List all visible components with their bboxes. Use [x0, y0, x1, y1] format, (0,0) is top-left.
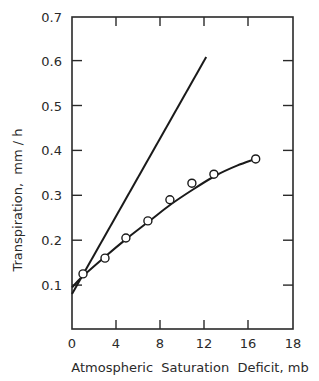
data-point [122, 234, 130, 242]
data-point [101, 254, 109, 262]
y-tick-label: 0.7 [41, 10, 62, 25]
y-tick-label: 0.3 [41, 188, 62, 203]
y-tick-label: 0.4 [41, 143, 62, 158]
data-point [252, 155, 260, 163]
transpiration-chart: 048121618 0.10.20.30.40.50.60.7 Atmosphe… [0, 0, 319, 381]
y-tick-label: 0.2 [41, 233, 62, 248]
x-tick-label: 4 [112, 336, 120, 351]
x-tick-label: 16 [240, 336, 257, 351]
y-tick-label: 0.1 [41, 278, 62, 293]
data-point [79, 270, 87, 278]
data-point [166, 196, 174, 204]
plot-frame [72, 17, 293, 329]
fitted-curve-series [72, 159, 256, 287]
y-tick-labels: 0.10.20.30.40.50.60.7 [41, 10, 62, 293]
x-tick-label: 18 [285, 336, 302, 351]
y-tick-label: 0.6 [41, 54, 62, 69]
y-tick-label: 0.5 [41, 99, 62, 114]
straight-line-series [72, 57, 206, 294]
x-tick-label: 8 [156, 336, 164, 351]
x-tick-labels: 048121618 [68, 336, 301, 351]
x-tick-label: 0 [68, 336, 76, 351]
axis-ticks [72, 17, 293, 329]
x-axis-title: Atmospheric Saturation Deficit, mb [71, 360, 308, 375]
observed-data-points [79, 155, 260, 278]
data-point [188, 179, 196, 187]
data-point [210, 170, 218, 178]
x-tick-label: 12 [196, 336, 213, 351]
data-point [144, 217, 152, 225]
y-axis-title: Transpiration, mm / h [10, 128, 25, 272]
